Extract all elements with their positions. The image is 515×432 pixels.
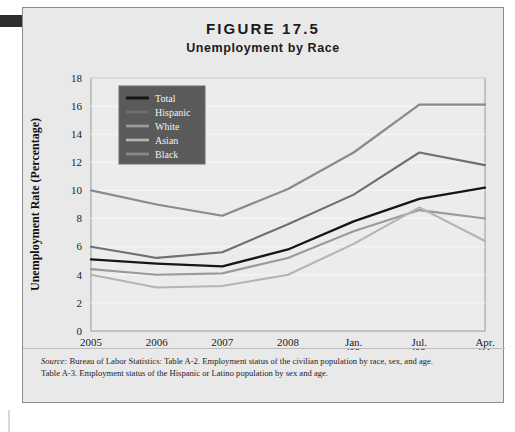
y-tick-label: 2 <box>77 297 83 309</box>
left-margin-rule <box>8 410 10 432</box>
source-line-1: Bureau of Labor Statistics: Table A-2. E… <box>67 356 433 366</box>
source-note: Source: Bureau of Labor Statistics: Tabl… <box>41 355 489 380</box>
figure-number: FIGURE 17.5 <box>23 20 503 37</box>
x-tick-label: 2008 <box>277 336 300 348</box>
y-axis-title: Unemployment Rate (Percentage) <box>28 118 42 291</box>
unemployment-line-chart: 024681012141618Unemployment Rate (Percen… <box>23 60 505 350</box>
y-tick-label: 18 <box>71 72 83 84</box>
figure-panel: FIGURE 17.5 Unemployment by Race 0246810… <box>22 7 504 403</box>
source-label: Source: <box>41 356 67 366</box>
y-tick-label: 8 <box>77 212 83 224</box>
y-tick-label: 0 <box>77 325 83 337</box>
x-tick-label: 2007 <box>211 336 234 348</box>
y-tick-label: 4 <box>77 269 83 281</box>
y-tick-label: 16 <box>71 100 83 112</box>
y-tick-label: 6 <box>77 240 83 252</box>
legend-label-hispanic: Hispanic <box>155 107 191 118</box>
figure-subtitle: Unemployment by Race <box>23 41 503 55</box>
x-tick-label: 2006 <box>146 336 169 348</box>
source-divider <box>23 348 505 349</box>
y-tick-label: 14 <box>71 128 83 140</box>
source-line-2: Table A-3. Employment status of the Hisp… <box>41 367 489 379</box>
y-tick-label: 12 <box>71 156 82 168</box>
chart-area: 024681012141618Unemployment Rate (Percen… <box>23 60 505 350</box>
legend-label-black: Black <box>155 149 178 160</box>
x-tick-label: 2005 <box>80 336 103 348</box>
figure-title-block: FIGURE 17.5 Unemployment by Race <box>23 8 503 55</box>
y-tick-label: 10 <box>71 184 83 196</box>
legend-label-total: Total <box>155 93 176 104</box>
legend-label-white: White <box>155 121 180 132</box>
legend-label-asian: Asian <box>155 135 178 146</box>
